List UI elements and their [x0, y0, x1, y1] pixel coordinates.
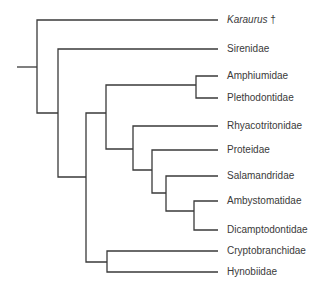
taxon-label-dicamptodontidae: Dicamptodontidae	[227, 224, 308, 236]
taxon-label-sirenidae: Sirenidae	[227, 43, 269, 55]
node-proteidae-split	[152, 150, 218, 193]
node-salamandroidea	[106, 85, 196, 149]
taxon-label-rhyacotritonidae: Rhyacotritonidae	[227, 120, 302, 132]
node-rhyacotritonidae-split	[133, 126, 218, 170]
node-sirenidae-split	[58, 49, 218, 177]
extinct-dagger-icon: †	[270, 14, 276, 25]
taxon-label-cryptobranchidae: Cryptobranchidae	[227, 245, 306, 257]
node-caudata	[37, 20, 218, 113]
taxon-label-ambystomatidae: Ambystomatidae	[227, 195, 301, 207]
node-crown-split	[86, 113, 107, 262]
taxon-label-proteidae: Proteidae	[227, 144, 270, 156]
node-amphiumidae-plethodontidae	[196, 76, 218, 98]
taxon-label-amphiumidae: Amphiumidae	[227, 70, 288, 82]
node-ambystomatidae-dicamptodontidae	[194, 201, 218, 230]
taxon-label-karaurus: Karaurus †	[227, 14, 276, 26]
node-salamandridae-split	[166, 176, 218, 211]
node-cryptobranchoidea	[107, 251, 218, 272]
taxon-label-plethodontidae: Plethodontidae	[227, 92, 294, 104]
taxon-name: Karaurus	[227, 14, 268, 25]
taxon-label-hynobiidae: Hynobiidae	[227, 266, 277, 278]
taxon-label-salamandridae: Salamandridae	[227, 170, 294, 182]
